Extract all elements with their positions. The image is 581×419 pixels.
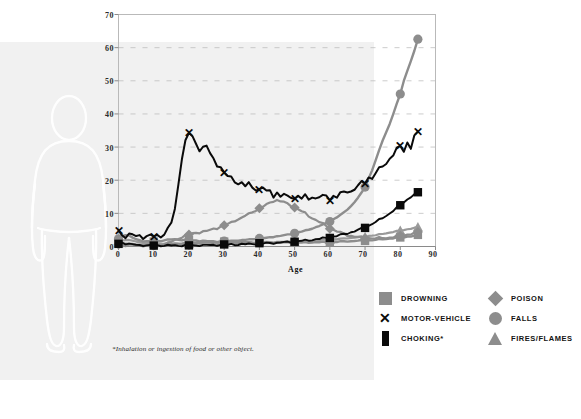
svg-text:✕: ✕: [325, 194, 335, 208]
series-fires-flames: [114, 222, 423, 248]
legend-label-poison: POISON: [511, 294, 543, 303]
legend-column-1: DROWNING ✕ MOTOR-VEHICLE CHOKING*: [376, 288, 476, 348]
legend-label-drowning: DROWNING: [401, 294, 448, 303]
svg-text:✕: ✕: [254, 183, 264, 197]
svg-text:✕: ✕: [290, 192, 300, 206]
svg-text:✕: ✕: [395, 139, 405, 153]
legend-label-motor-vehicle: MOTOR-VEHICLE: [401, 314, 471, 323]
chart-legend: DROWNING ✕ MOTOR-VEHICLE CHOKING* POISON…: [376, 288, 576, 348]
svg-text:✕: ✕: [413, 125, 423, 139]
diamond-icon: [486, 290, 504, 306]
legend-column-2: POISON FALLS FIRES/FLAMES: [486, 288, 581, 348]
legend-label-fires-flames: FIRES/FLAMES: [511, 334, 573, 343]
circle-icon: [486, 310, 504, 326]
legend-label-choking: CHOKING*: [401, 334, 444, 343]
svg-text:✕: ✕: [184, 126, 194, 140]
svg-text:✕: ✕: [360, 177, 370, 191]
legend-item-choking[interactable]: CHOKING*: [376, 328, 476, 348]
chart-footnote: *Inhalation or ingestion of food or othe…: [112, 345, 254, 353]
legend-item-poison[interactable]: POISON: [486, 288, 581, 308]
series-motor-vehicle: ✕✕✕✕✕✕✕✕✕✕: [114, 125, 423, 244]
series-falls: [114, 35, 423, 250]
legend-item-falls[interactable]: FALLS: [486, 308, 581, 328]
legend-item-motor-vehicle[interactable]: ✕ MOTOR-VEHICLE: [376, 308, 476, 328]
legend-label-falls: FALLS: [511, 314, 538, 323]
legend-item-fires-flames[interactable]: FIRES/FLAMES: [486, 328, 581, 348]
triangle-icon: [486, 330, 504, 346]
svg-text:✕: ✕: [114, 224, 124, 238]
square-icon: [376, 290, 394, 306]
chart-root: 70 60 50 40 30 20 10 0 0 10 20 30 40 50 …: [0, 0, 581, 419]
svg-text:✕: ✕: [219, 166, 229, 180]
svg-text:✕: ✕: [149, 230, 159, 244]
rectangle-icon: [376, 330, 394, 346]
legend-item-drowning[interactable]: DROWNING: [376, 288, 476, 308]
x-mark-icon: ✕: [376, 310, 394, 326]
chart-plot: ✕✕✕✕✕✕✕✕✕✕: [0, 0, 581, 419]
